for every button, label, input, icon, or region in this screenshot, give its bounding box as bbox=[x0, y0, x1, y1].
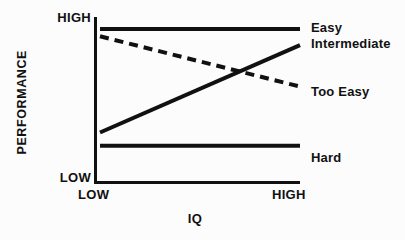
series-label-intermediate: Intermediate bbox=[311, 37, 391, 50]
y-axis-tick-low: LOW bbox=[55, 171, 91, 184]
x-axis-title: IQ bbox=[155, 212, 235, 225]
chart-figure: PERFORMANCE HIGH LOW LOW HIGH IQ Easy In… bbox=[0, 0, 405, 240]
series-label-hard: Hard bbox=[311, 151, 341, 164]
series-line-intermediate bbox=[100, 45, 300, 132]
x-axis-tick-low: LOW bbox=[78, 188, 109, 201]
x-axis-tick-high: HIGH bbox=[272, 188, 306, 201]
series-line-too-easy bbox=[100, 36, 300, 86]
series-label-easy: Easy bbox=[311, 21, 342, 34]
y-axis-title: PERFORMANCE bbox=[16, 42, 29, 162]
y-axis-tick-high: HIGH bbox=[55, 11, 91, 24]
series-label-too-easy: Too Easy bbox=[311, 85, 369, 98]
